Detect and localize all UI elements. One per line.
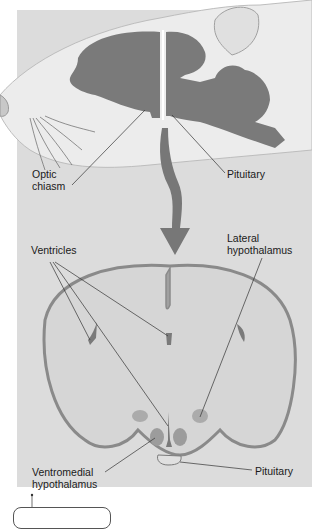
pituitary-bottom-shape — [157, 455, 181, 465]
ventromedial-right — [173, 428, 187, 446]
lateral-hypothalamus-nucleus — [192, 409, 208, 423]
ventromedial-left — [150, 428, 164, 446]
callout-box — [13, 507, 111, 529]
label-optic-chiasm: Optic chiasm — [32, 168, 65, 192]
label-ventromedial-hypothalamus: Ventromedial hypothalamus — [32, 466, 97, 490]
nucleus-left-lateral — [132, 410, 148, 422]
label-lateral-hypothalamus: Lateral hypothalamus — [227, 232, 292, 256]
ventricle-third — [166, 333, 172, 345]
label-hypothalamus: hypothalamus — [227, 244, 292, 256]
label-chiasm: chiasm — [32, 180, 65, 192]
label-pituitary-top: Pituitary — [227, 168, 265, 180]
label-lateral: Lateral — [227, 232, 292, 244]
label-pituitary-bottom: Pituitary — [255, 465, 293, 477]
label-vmh-hypothalamus: hypothalamus — [32, 478, 97, 490]
label-ventricles: Ventricles — [31, 244, 77, 256]
coronal-section — [44, 265, 295, 465]
label-optic: Optic — [32, 168, 65, 180]
label-ventromedial: Ventromedial — [32, 466, 97, 478]
